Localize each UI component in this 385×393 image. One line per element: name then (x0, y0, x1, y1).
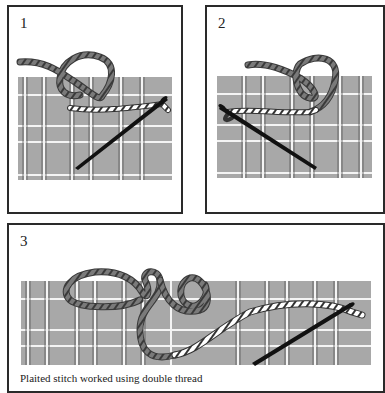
canvas-grid-2 (217, 76, 372, 178)
caption: Plaited stitch worked using double threa… (20, 372, 202, 384)
